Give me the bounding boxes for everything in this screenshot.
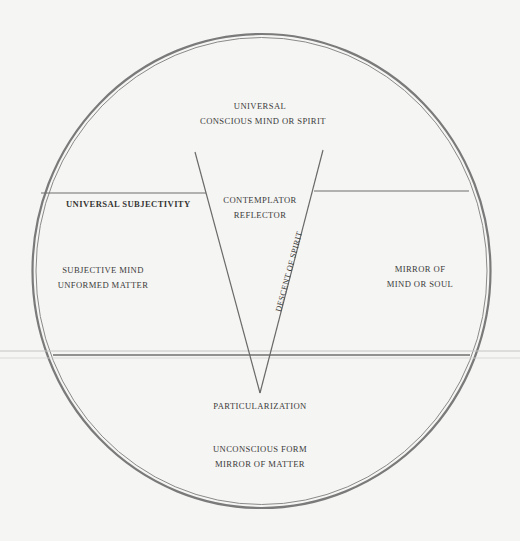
label-mirror-of: MIRROR OF bbox=[370, 262, 470, 277]
label-mirror-of-mind: MIRROR OF MIND OR SOUL bbox=[370, 262, 470, 292]
label-universal-conscious-mind: UNIVERSAL CONSCIOUS MIND OR SPIRIT bbox=[200, 99, 320, 129]
label-unconscious-form: UNCONSCIOUS FORM MIRROR OF MATTER bbox=[200, 442, 320, 472]
label-particularization: PARTICULARIZATION bbox=[200, 399, 320, 414]
label-contemplator: CONTEMPLATOR bbox=[205, 193, 315, 208]
label-mind-or-soul: MIND OR SOUL bbox=[370, 277, 470, 292]
label-reflector: REFLECTOR bbox=[205, 208, 315, 223]
label-unconscious-form-line: UNCONSCIOUS FORM bbox=[200, 442, 320, 457]
label-universal-subjectivity: UNIVERSAL SUBJECTIVITY bbox=[66, 197, 186, 212]
label-unformed-matter: UNFORMED MATTER bbox=[48, 278, 158, 293]
label-universal: UNIVERSAL bbox=[200, 99, 320, 114]
label-conscious-mind-or-spirit: CONSCIOUS MIND OR SPIRIT bbox=[200, 114, 320, 129]
label-contemplator-reflector: CONTEMPLATOR REFLECTOR bbox=[205, 193, 315, 223]
v-left-arm bbox=[195, 152, 260, 393]
label-subjective-mind: SUBJECTIVE MIND UNFORMED MATTER bbox=[48, 263, 158, 293]
label-mirror-of-matter: MIRROR OF MATTER bbox=[200, 457, 320, 472]
label-subjective-mind-line: SUBJECTIVE MIND bbox=[48, 263, 158, 278]
